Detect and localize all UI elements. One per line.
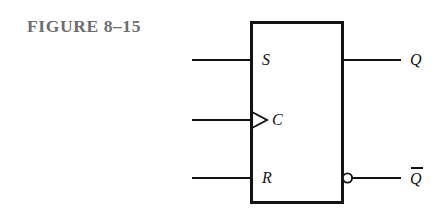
port-label-c: C [272, 112, 283, 128]
output-label-qbar: Q [410, 170, 422, 187]
qbar-inversion-bubble-icon [343, 173, 352, 182]
output-label-qbar-text: Q [410, 170, 422, 187]
output-label-q: Q [410, 52, 422, 68]
figure-container: FIGURE 8–15 S C R Q Q [0, 0, 442, 212]
flip-flop-schematic [0, 0, 442, 212]
port-label-s: S [262, 52, 270, 68]
port-label-r: R [262, 170, 272, 186]
